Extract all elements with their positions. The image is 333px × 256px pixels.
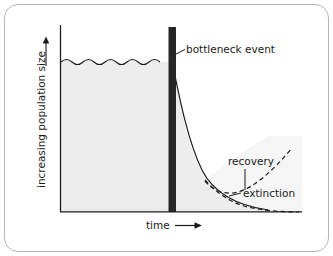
bottleneck-bar [169, 27, 177, 212]
recovery-label: recovery [228, 155, 274, 167]
x-axis-label: time [146, 219, 170, 231]
figure-root: increasing population size time bottlene… [0, 0, 333, 256]
bottleneck-leader-line [176, 50, 185, 55]
bottleneck-annotation: bottleneck event [176, 43, 275, 55]
bottleneck-chart: increasing population size time bottlene… [0, 0, 333, 256]
extinction-label: extinction [243, 187, 295, 199]
y-axis-label: increasing population size [35, 51, 47, 188]
bottleneck-label: bottleneck event [186, 43, 275, 55]
arrow-right-icon [175, 222, 202, 229]
